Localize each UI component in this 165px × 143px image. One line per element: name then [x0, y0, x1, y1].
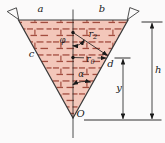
- corner-flag-right-icon: [127, 8, 139, 20]
- d-label: d: [107, 58, 113, 69]
- figure-canvas: r2 r0 φ α h y a b c d O: [0, 0, 165, 143]
- a-label: a: [38, 3, 44, 14]
- b-label: b: [99, 3, 105, 14]
- c-label: c: [29, 48, 35, 59]
- corner-flag-left-icon: [7, 8, 19, 20]
- origin-label: O: [77, 108, 85, 119]
- h-label: h: [155, 64, 161, 75]
- y-label: y: [115, 82, 122, 93]
- funnel-diagram: r2 r0 φ α h y a b c d O: [0, 0, 165, 143]
- phi-label: φ: [60, 35, 66, 45]
- alpha-label: α: [78, 69, 84, 79]
